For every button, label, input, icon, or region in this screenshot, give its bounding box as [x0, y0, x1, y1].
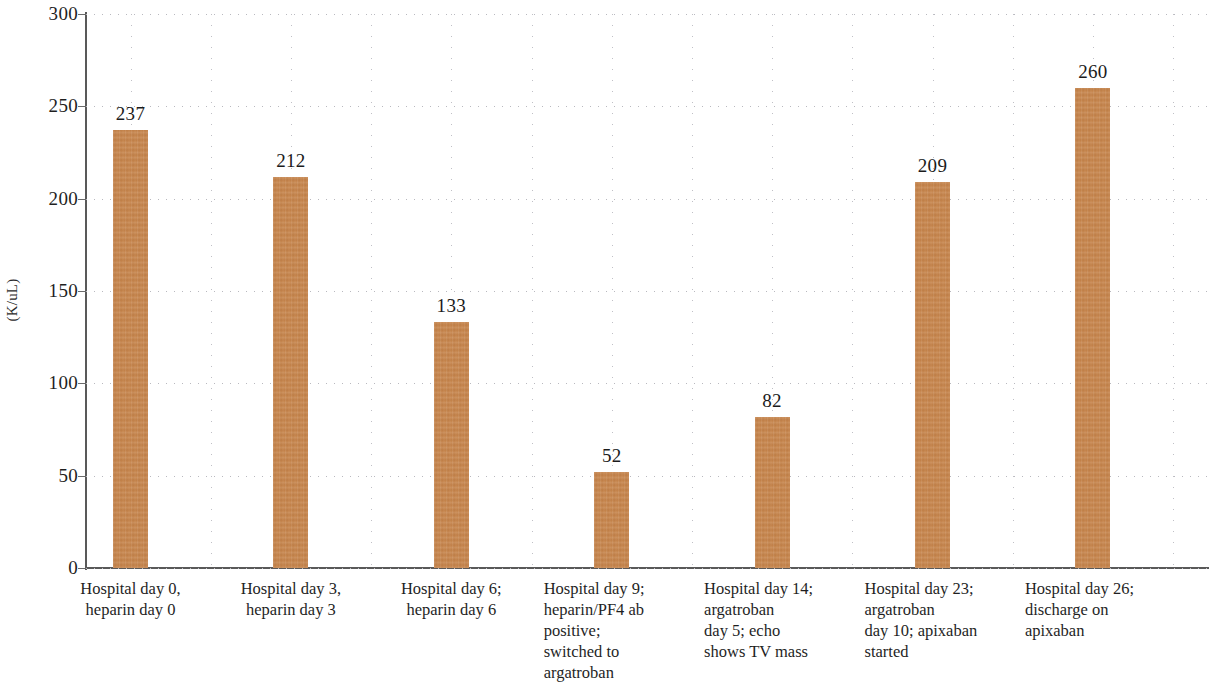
bar-value-label: 133: [406, 295, 496, 317]
y-axis-tick-mark: [78, 14, 86, 15]
bar[interactable]: [113, 130, 148, 568]
gridline-vertical: [532, 14, 533, 568]
gridline-vertical: [692, 14, 693, 568]
bar-value-label: 237: [86, 103, 176, 125]
y-axis-tick-label: 100: [8, 372, 78, 394]
x-axis-category-label-line: argatroban: [704, 599, 854, 620]
x-axis-category-label-line: argatroban: [865, 599, 1015, 620]
bar-chart: (K/uL) 050100150200250300 23721213352822…: [0, 0, 1209, 699]
x-axis-category-label: Hospital day 0,heparin day 0: [51, 578, 211, 620]
y-axis-tick-mark: [78, 568, 86, 569]
x-axis-category-label-line: Hospital day 26;: [1025, 578, 1175, 599]
gridline-horizontal: [86, 568, 1207, 569]
y-axis-tick-label: 150: [8, 280, 78, 302]
bar[interactable]: [1075, 88, 1110, 568]
x-axis-category-label-line: day 10; apixaban: [865, 620, 1015, 641]
gridline-vertical: [1173, 14, 1174, 568]
bar[interactable]: [755, 417, 790, 568]
x-axis-category-label-line: switched to: [544, 641, 694, 662]
x-axis-category-label: Hospital day 23;argatrobanday 10; apixab…: [865, 578, 1015, 662]
x-axis-category-label-line: apixaban: [1025, 620, 1175, 641]
gridline-horizontal: [86, 291, 1207, 292]
x-axis-category-label-line: Hospital day 0,: [51, 578, 211, 599]
x-axis-category-label: Hospital day 26;discharge onapixaban: [1025, 578, 1175, 641]
gridline-horizontal: [86, 199, 1207, 200]
y-axis-tick-mark: [78, 383, 86, 384]
bar[interactable]: [434, 322, 469, 568]
y-axis-tick-mark: [78, 476, 86, 477]
x-axis-category-label-line: positive;: [544, 620, 694, 641]
x-axis-category-label-line: Hospital day 9;: [544, 578, 694, 599]
x-axis-category-label-line: Hospital day 3,: [211, 578, 371, 599]
x-axis-category-label-line: argatroban: [544, 662, 694, 683]
x-axis-category-label-line: shows TV mass: [704, 641, 854, 662]
y-axis-tick-mark: [78, 199, 86, 200]
y-axis-tick-label: 300: [8, 3, 78, 25]
y-axis-tick-label: 250: [8, 95, 78, 117]
x-axis-category-label-line: Hospital day 14;: [704, 578, 854, 599]
x-axis-category-label: Hospital day 6;heparin day 6: [371, 578, 531, 620]
bar-value-label: 212: [246, 150, 336, 172]
gridline-vertical: [1013, 14, 1014, 568]
gridline-horizontal: [86, 476, 1207, 477]
gridline-horizontal: [86, 106, 1207, 107]
x-axis-category-label-line: Hospital day 6;: [371, 578, 531, 599]
x-axis-category-label: Hospital day 14;argatrobanday 5; echosho…: [704, 578, 854, 662]
x-axis-category-label-line: discharge on: [1025, 599, 1175, 620]
x-axis-category-label-line: started: [865, 641, 1015, 662]
y-axis-tick-mark: [78, 291, 86, 292]
bar-value-label: 209: [888, 155, 978, 177]
x-axis-category-label: Hospital day 3,heparin day 3: [211, 578, 371, 620]
gridline-horizontal: [86, 383, 1207, 384]
bar[interactable]: [594, 472, 629, 568]
x-axis-category-label-line: heparin/PF4 ab: [544, 599, 694, 620]
y-axis-tick-label: 0: [8, 557, 78, 579]
gridline-vertical: [371, 14, 372, 568]
x-axis-category-label-line: heparin day 3: [211, 599, 371, 620]
plot-area: 2372121335282209260: [86, 14, 1207, 568]
x-axis-category-label-line: day 5; echo: [704, 620, 854, 641]
x-axis-category-label-line: Hospital day 23;: [865, 578, 1015, 599]
x-axis-category-label: Hospital day 9;heparin/PF4 abpositive;sw…: [544, 578, 694, 683]
y-axis-tick-label: 50: [8, 465, 78, 487]
bar-value-label: 52: [567, 445, 657, 467]
gridline-horizontal: [86, 14, 1207, 15]
bar[interactable]: [273, 177, 308, 568]
gridline-vertical: [852, 14, 853, 568]
bar[interactable]: [915, 182, 950, 568]
y-axis-tick-label: 200: [8, 188, 78, 210]
x-axis-category-label-line: heparin day 6: [371, 599, 531, 620]
gridline-vertical: [211, 14, 212, 568]
bar-value-label: 82: [727, 390, 817, 412]
x-axis-category-label-line: heparin day 0: [51, 599, 211, 620]
bar-value-label: 260: [1048, 61, 1138, 83]
